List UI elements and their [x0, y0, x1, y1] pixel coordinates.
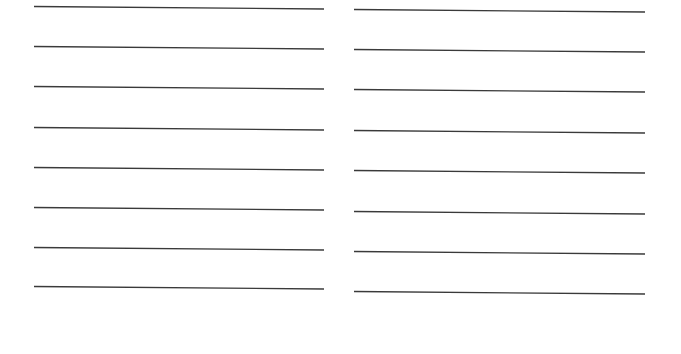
writing-line — [34, 7, 324, 10]
writing-line — [354, 292, 645, 295]
writing-line — [354, 131, 645, 134]
writing-line — [34, 128, 324, 131]
writing-line — [34, 87, 324, 90]
writing-line — [354, 252, 645, 255]
ruled-lines-sheet — [0, 0, 681, 354]
writing-line — [34, 47, 324, 50]
writing-line — [354, 50, 645, 53]
right-column-lines — [354, 10, 645, 295]
writing-line — [34, 248, 324, 251]
writing-line — [354, 212, 645, 215]
writing-line — [34, 287, 324, 290]
writing-line — [34, 208, 324, 211]
writing-line — [34, 168, 324, 171]
writing-line — [354, 90, 645, 93]
left-column-lines — [34, 7, 324, 290]
writing-line — [354, 171, 645, 174]
writing-line — [354, 10, 645, 13]
